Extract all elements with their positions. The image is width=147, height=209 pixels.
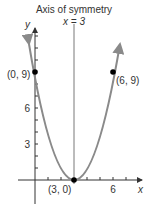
x-tick-label-6: 6 xyxy=(110,184,116,195)
x-axis-label: x xyxy=(137,184,144,195)
y-tick-label-3: 3 xyxy=(24,139,30,150)
point-label-3-0: (3, 0) xyxy=(48,184,71,195)
annotation-title-line2: x = 3 xyxy=(62,16,85,27)
y-tick-label-6: 6 xyxy=(24,103,30,114)
vertex-point xyxy=(71,177,77,183)
point-label-0-9: (0, 9) xyxy=(7,69,30,80)
y-axis-label: y xyxy=(24,19,31,30)
parabola-chart: Axis of symmetry x = 3 y x 3 6 6 (0, 9) … xyxy=(0,0,147,209)
point-6-9 xyxy=(110,69,116,75)
point-label-6-9: (6, 9) xyxy=(116,75,139,86)
point-0-9 xyxy=(32,69,38,75)
parabola-curve xyxy=(29,44,120,180)
annotation-title-line1: Axis of symmetry xyxy=(36,4,112,15)
